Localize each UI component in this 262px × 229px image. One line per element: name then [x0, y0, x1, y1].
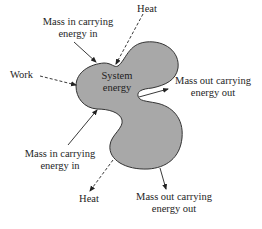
mass-out-bottom-line1: Mass out carrying [124, 191, 224, 203]
mass-out-right-line2: energy out [164, 87, 262, 99]
heat-top-label: Heat [132, 3, 162, 15]
mass-in-top-arrow [74, 42, 96, 62]
mass-in-top-line2: energy in [30, 28, 126, 40]
work-text: Work [10, 69, 42, 81]
heat-bottom-text: Heat [74, 193, 104, 205]
work-label: Work [10, 69, 42, 81]
mass-out-bottom-label: Mass out carrying energy out [124, 191, 224, 215]
work-arrow [40, 76, 76, 85]
heat-bottom-label: Heat [74, 193, 104, 205]
mass-in-bottom-label: Mass in carrying energy in [14, 148, 106, 172]
mass-in-top-label: Mass in carrying energy in [30, 16, 126, 40]
mass-out-right-label: Mass out carrying energy out [164, 75, 262, 99]
system-label-line2: energy [92, 82, 142, 94]
heat-top-text: Heat [132, 3, 162, 15]
system-energy-label: System energy [92, 70, 142, 94]
mass-out-bottom-line2: energy out [124, 203, 224, 215]
mass-in-bottom-arrow [68, 110, 97, 145]
mass-in-bottom-line2: energy in [14, 160, 106, 172]
mass-in-bottom-line1: Mass in carrying [14, 148, 106, 160]
mass-out-bottom-arrow [160, 168, 166, 189]
mass-in-top-line1: Mass in carrying [30, 16, 126, 28]
system-label-line1: System [92, 70, 142, 82]
mass-out-right-line1: Mass out carrying [164, 75, 262, 87]
